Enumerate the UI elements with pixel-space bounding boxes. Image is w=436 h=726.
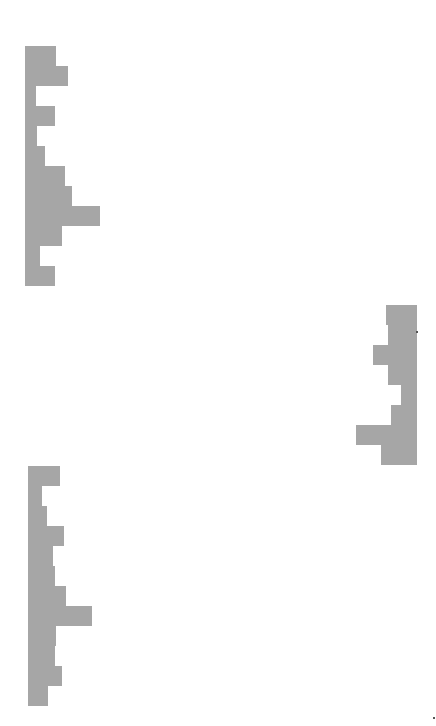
bar	[356, 425, 417, 445]
bar	[28, 506, 47, 526]
bar	[25, 166, 65, 186]
bar	[25, 146, 45, 166]
bar	[28, 526, 64, 546]
bar	[373, 345, 417, 365]
bar	[28, 546, 53, 566]
bar	[28, 486, 42, 506]
bar	[25, 266, 55, 286]
bar	[28, 606, 92, 626]
bar	[391, 405, 417, 425]
bar	[25, 66, 68, 86]
bar	[401, 385, 417, 405]
bar	[381, 445, 417, 465]
stray-dot	[416, 331, 418, 333]
bar	[25, 106, 55, 126]
bar	[388, 365, 417, 385]
bar	[388, 325, 417, 345]
bar	[25, 246, 40, 266]
bar	[386, 305, 417, 325]
bar	[25, 126, 37, 146]
bar	[28, 566, 55, 586]
bar	[28, 626, 56, 646]
bar	[25, 186, 72, 206]
bar	[25, 226, 62, 246]
bar	[28, 666, 62, 686]
bar	[25, 46, 56, 66]
bar	[28, 646, 55, 666]
bar	[28, 586, 66, 606]
bar	[28, 686, 48, 706]
bar	[25, 86, 36, 106]
bar	[28, 466, 60, 486]
bar	[25, 206, 100, 226]
stray-dot	[433, 717, 435, 719]
